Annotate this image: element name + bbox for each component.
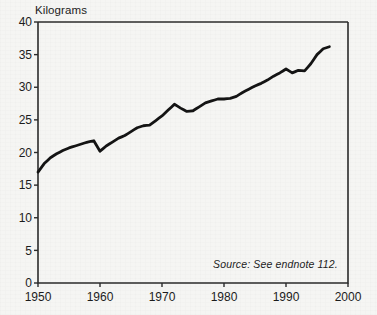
chart-plot-area: [0, 0, 377, 315]
data-series-line: [38, 47, 329, 172]
axis-frame: [38, 22, 348, 283]
chart-figure: Kilograms 40 35 30 25 20 15 10 5 0 1950 …: [0, 0, 377, 315]
